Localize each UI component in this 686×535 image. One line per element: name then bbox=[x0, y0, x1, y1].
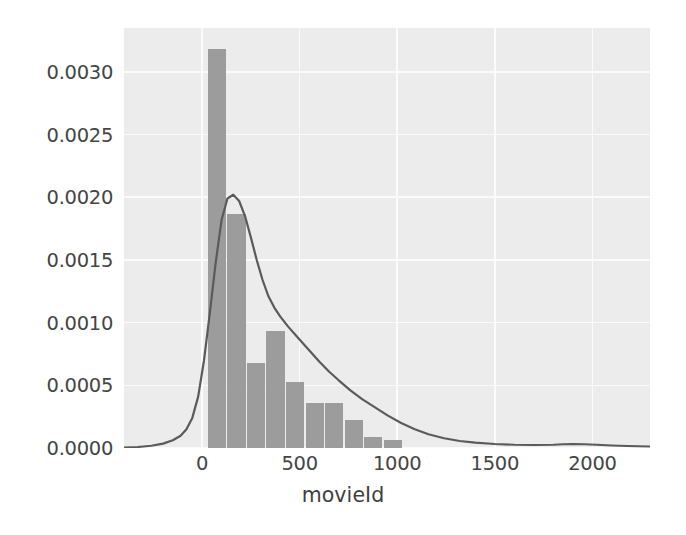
x-tick-label: 2000 bbox=[568, 452, 616, 475]
x-tick-label: 0 bbox=[196, 452, 208, 475]
y-tick-label: 0.0000 bbox=[0, 437, 113, 460]
y-tick-label: 0.0015 bbox=[0, 248, 113, 271]
kde-path bbox=[124, 195, 650, 448]
plot-area bbox=[124, 28, 650, 448]
y-tick-label: 0.0030 bbox=[0, 60, 113, 83]
figure-histogram-movieid: 0.00000.00050.00100.00150.00200.00250.00… bbox=[0, 0, 686, 535]
x-tick-label: 1000 bbox=[373, 452, 421, 475]
x-tick-label: 500 bbox=[281, 452, 317, 475]
y-tick-label: 0.0010 bbox=[0, 311, 113, 334]
y-tick-label: 0.0020 bbox=[0, 186, 113, 209]
kde-density-curve bbox=[124, 28, 650, 448]
x-tick-label: 1500 bbox=[471, 452, 519, 475]
y-tick-label: 0.0005 bbox=[0, 374, 113, 397]
y-tick-label: 0.0025 bbox=[0, 123, 113, 146]
x-axis-label: movieId bbox=[0, 483, 686, 507]
